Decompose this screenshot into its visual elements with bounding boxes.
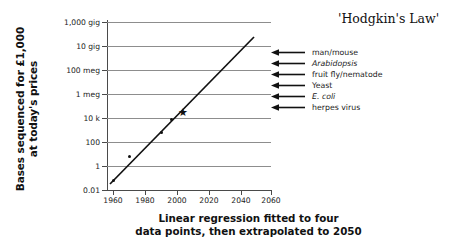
left-arrow-icon: [271, 47, 307, 58]
y-tick-label: 10 gig: [76, 42, 100, 51]
left-arrow-icon: [271, 102, 307, 113]
y-tick: [102, 190, 107, 191]
y-tick: [102, 94, 107, 95]
y-tick: [102, 22, 107, 23]
left-arrow-icon: [271, 69, 307, 80]
x-tick: [241, 190, 242, 195]
annotation-label: fruit fly/nematode: [312, 70, 382, 80]
gridline: [107, 118, 271, 119]
y-tick-label: 1: [95, 162, 100, 171]
left-arrow-icon: [271, 58, 307, 69]
annotation-label: E. coli: [312, 92, 335, 102]
y-tick-label: 10 k: [84, 114, 100, 123]
data-point: [112, 179, 115, 182]
x-tick-label: 2060: [251, 196, 291, 205]
x-tick: [177, 190, 178, 195]
chart-figure: Bases sequenced for £1,000 at today's pr…: [0, 0, 473, 244]
x-axis-line: [107, 190, 271, 191]
left-arrow-icon: [271, 80, 307, 91]
y-tick: [102, 118, 107, 119]
annotation-label: herpes virus: [312, 103, 360, 113]
chart-title: 'Hodgkin's Law': [338, 11, 439, 26]
y-axis-title: Bases sequenced for £1,000 at today's pr…: [14, 14, 40, 204]
annotation-label: Arabidopsis: [312, 59, 357, 69]
data-point: [170, 118, 173, 121]
x-tick: [209, 190, 210, 195]
gridline: [107, 70, 271, 71]
y-tick: [102, 46, 107, 47]
y-tick-label: 100: [86, 138, 101, 147]
y-tick: [102, 166, 107, 167]
gridline: [107, 22, 271, 23]
y-tick-label: 1,000 gig: [64, 18, 100, 27]
y-tick-label: 0.01: [83, 186, 100, 195]
gridline: [107, 46, 271, 47]
x-tick: [145, 190, 146, 195]
data-point: [128, 155, 131, 158]
annotation-label: man/mouse: [312, 48, 358, 58]
gridline: [107, 166, 271, 167]
data-point: [160, 131, 163, 134]
gridline: [107, 94, 271, 95]
y-tick-label: 100 meg: [66, 66, 100, 75]
gridline: [107, 142, 271, 143]
x-tick: [271, 190, 272, 195]
left-arrow-icon: [271, 91, 307, 102]
x-tick: [113, 190, 114, 195]
y-tick: [102, 142, 107, 143]
star-data-point: ★: [178, 107, 188, 118]
y-tick: [102, 70, 107, 71]
chart-caption: Linear regression fitted to four data po…: [0, 212, 473, 238]
annotation-label: Yeast: [312, 81, 332, 91]
regression-line-layer: [0, 0, 473, 244]
y-tick-label: 1 meg: [76, 90, 100, 99]
